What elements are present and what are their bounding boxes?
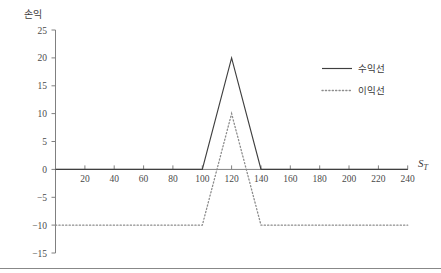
x-tick-label-140: 140	[254, 174, 269, 184]
x-tick-label-240: 240	[401, 174, 416, 184]
legend-label-payoff: 수익선	[358, 63, 385, 74]
x-axis-title-sub: T	[424, 163, 429, 172]
y-tick-label-neg15: −15	[32, 249, 47, 259]
x-tick-label-40: 40	[109, 174, 119, 184]
y-tick-label-neg10: −10	[32, 221, 47, 231]
y-tick-label-neg5: −5	[37, 193, 47, 203]
y-tick-label-25: 25	[38, 26, 48, 36]
x-tick-label-20: 20	[80, 174, 90, 184]
x-tick-label-80: 80	[168, 174, 178, 184]
x-axis-title: ST	[418, 157, 429, 172]
x-tick-label-160: 160	[283, 174, 298, 184]
y-tick-label-15: 15	[38, 81, 48, 91]
y-tick-label-0: 0	[42, 165, 47, 175]
chart-figure: 25 20 15 10 5 0 −5 −10 −15 손익 20	[0, 0, 441, 273]
bottom-divider	[0, 268, 441, 269]
x-tick-label-220: 220	[371, 174, 386, 184]
x-tick-label-120: 120	[224, 174, 239, 184]
x-tick-label-60: 60	[139, 174, 149, 184]
chart-legend: 수익선 이익선	[322, 63, 385, 96]
payoff-chart: 25 20 15 10 5 0 −5 −10 −15 손익 20	[0, 0, 441, 273]
y-axis-title: 손익	[24, 9, 42, 20]
y-tick-marks	[52, 30, 56, 253]
y-tick-label-10: 10	[38, 109, 48, 119]
x-tick-label-200: 200	[342, 174, 357, 184]
x-tick-label-180: 180	[313, 174, 328, 184]
legend-label-profit: 이익선	[358, 85, 385, 96]
x-tick-label-100: 100	[195, 174, 210, 184]
y-tick-label-20: 20	[38, 53, 48, 63]
y-tick-label-5: 5	[42, 137, 47, 147]
